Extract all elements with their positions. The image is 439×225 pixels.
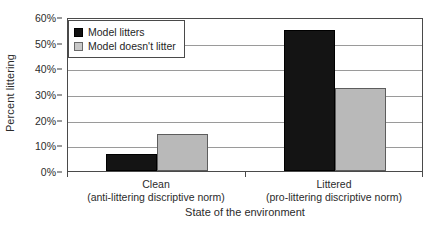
y-axis-tick-mark	[57, 69, 62, 70]
y-axis-title-text: Percent littering	[4, 54, 16, 132]
y-axis-tick-label: 30%	[35, 89, 56, 101]
y-axis-tick-mark	[57, 95, 62, 96]
legend-swatch-icon	[74, 28, 83, 37]
y-axis-tick-label: 20%	[35, 115, 56, 127]
category-sublabel: (pro-littering discriptive norm)	[245, 191, 423, 204]
bar-clean-model-litters	[106, 154, 157, 171]
gridline	[68, 70, 422, 71]
y-axis-tick-mark	[57, 172, 62, 173]
y-axis-tick-label: 40%	[35, 63, 56, 75]
x-axis-category-label: Littered(pro-littering discriptive norm)	[245, 178, 423, 204]
y-axis-tick-label: 50%	[35, 38, 56, 50]
y-axis-title: Percent littering	[0, 0, 20, 186]
y-axis-tick-mark	[57, 146, 62, 147]
bar-chart-figure: Percent littering 0%10%20%30%40%50%60% M…	[0, 0, 439, 225]
legend-swatch-icon	[74, 42, 83, 51]
y-axis-tick-mark	[57, 43, 62, 44]
x-axis-category-label: Clean(anti-littering discriptive norm)	[67, 178, 245, 204]
category-sublabel: (anti-littering discriptive norm)	[67, 191, 245, 204]
legend-label: Model doesn't litter	[88, 40, 176, 52]
y-axis-tick-mark	[57, 18, 62, 19]
legend-item: Model doesn't litter	[74, 39, 176, 53]
chart-legend: Model littersModel doesn't litter	[68, 20, 185, 58]
category-name: Clean	[67, 178, 245, 191]
bar-littered-model-litters	[284, 30, 335, 171]
y-axis-tick-mark	[57, 120, 62, 121]
y-axis-tick-label: 10%	[35, 140, 56, 152]
y-axis-ticks: 0%10%20%30%40%50%60%	[20, 18, 62, 172]
x-axis-title: State of the environment	[67, 206, 423, 218]
bar-littered-model-doesnt-litter	[335, 88, 386, 171]
legend-item: Model litters	[74, 25, 176, 39]
x-axis-tick-mark	[67, 172, 68, 177]
y-axis-tick-label: 0%	[41, 166, 56, 178]
y-axis-tick-label: 60%	[35, 12, 56, 24]
x-axis-tick-mark	[245, 172, 246, 177]
legend-label: Model litters	[88, 26, 145, 38]
bar-clean-model-doesnt-litter	[157, 134, 208, 171]
category-name: Littered	[245, 178, 423, 191]
x-axis-tick-mark	[422, 172, 423, 177]
